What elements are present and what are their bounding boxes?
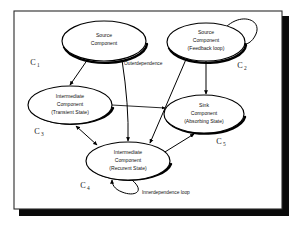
node-c4-line1: Intermediate [114,149,142,155]
annotation-innerdependence-loop: Innerdependence loop [142,190,190,195]
node-c5-line1: Sink [199,102,209,108]
node-c4-line2: Component [115,157,142,163]
node-c3-tag-letter: C [34,127,40,136]
node-c3-line2: Component [57,101,84,107]
node-c5-tag-subscript: 5 [223,141,226,147]
node-c3-line1: Intermediate [56,93,84,99]
node-c1[interactable]: Source Component [62,21,147,63]
node-c1-line1: Source [96,32,112,38]
node-c2-tag-subscript: 2 [244,65,247,71]
node-c5-line3: (Absorbing State) [184,118,224,124]
node-c3[interactable]: Intermediate Component (Transient State) [28,86,113,124]
node-c1-tag-letter: C [30,58,36,67]
node-c1-tag-subscript: 1 [37,62,40,68]
figure-canvas: Source Component C 1 Source Component (F… [0,0,294,225]
node-c3-line3: (Transient State) [51,109,89,115]
node-c4-tag-subscript: 4 [87,185,90,191]
node-c2-line1: Source [198,29,214,35]
node-c5-line2: Component [191,110,218,116]
node-c4[interactable]: Intermediate Component (Recurent State) [86,142,171,180]
node-c4-tag-letter: C [80,181,86,190]
node-c1-line2: Component [91,40,118,46]
node-c2-line2: Component [193,37,220,43]
component-dependency-diagram: Source Component C 1 Source Component (F… [0,0,294,225]
annotation-outerdependence: Outerdependence [124,61,163,66]
node-c5[interactable]: Sink Component (Absorbing State) [164,95,245,134]
node-c5-tag-letter: C [216,137,222,146]
node-c2[interactable]: Source Component (Feedback loop) [167,23,246,63]
node-c2-line3: (Feedback loop) [188,45,225,51]
node-c3-tag-subscript: 3 [41,131,44,137]
node-c4-line3: (Recurent State) [109,165,147,171]
node-c2-tag-letter: C [237,61,243,70]
